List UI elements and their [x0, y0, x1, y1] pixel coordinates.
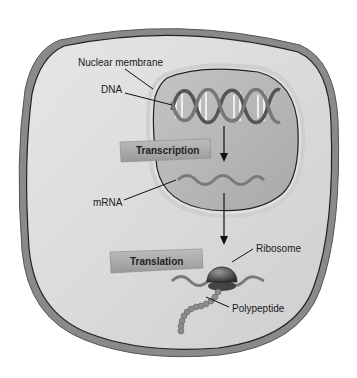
ribosome-label: Ribosome — [256, 243, 301, 254]
transcription-box: Transcription — [120, 139, 211, 162]
mrna-label: mRNA — [93, 197, 123, 208]
ribosome — [207, 267, 237, 291]
dna-label: DNA — [101, 84, 122, 95]
cell-diagram: Transcription Translation — [0, 0, 357, 378]
transcription-label: Transcription — [136, 145, 199, 156]
polypeptide-label: Polypeptide — [232, 303, 285, 314]
nuclear-membrane-label: Nuclear membrane — [78, 57, 163, 68]
translation-label: Translation — [130, 256, 183, 267]
